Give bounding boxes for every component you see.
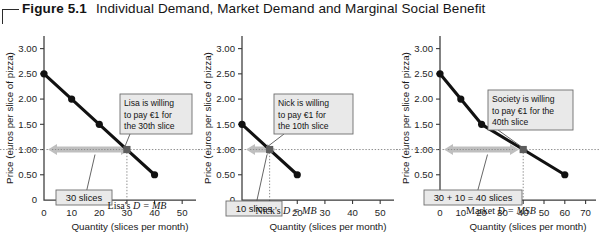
y-tick-label: 2.50 bbox=[18, 68, 37, 79]
data-point bbox=[436, 70, 443, 77]
y-tick-label: 2.50 bbox=[216, 68, 235, 79]
y-tick-label: 2.00 bbox=[216, 93, 235, 104]
callout-text-line: to pay €1 for the bbox=[492, 106, 554, 116]
callout-text-line: 40th slice bbox=[492, 117, 529, 127]
callout-text-line: to pay €1 for bbox=[278, 110, 326, 120]
curve-label: Nick's D = MB bbox=[255, 205, 316, 216]
y-tick-label: 2.50 bbox=[414, 68, 433, 79]
data-point bbox=[238, 121, 245, 128]
x-tick-label: 0 bbox=[437, 207, 442, 218]
x-tick-label: 40 bbox=[347, 207, 358, 218]
y-tick-label: 1.50 bbox=[216, 119, 235, 130]
x-tick-label: 20 bbox=[94, 207, 105, 218]
x-tick-label: 50 bbox=[539, 207, 550, 218]
y-tick-label: 3.00 bbox=[216, 43, 235, 54]
x-tick-label: 50 bbox=[177, 207, 188, 218]
highlight-point-marker bbox=[266, 146, 273, 153]
chart-market: 00.501.001.502.002.503.00010203040506070… bbox=[396, 24, 599, 247]
x-tick-label: 60 bbox=[559, 207, 570, 218]
y-axis-label: Price (euros per slice of pizza) bbox=[4, 52, 15, 184]
figure-header: Figure 5.1 Individual Demand, Market Dem… bbox=[0, 0, 599, 22]
corner-rule-decoration bbox=[2, 9, 19, 24]
highlight-point-marker bbox=[123, 146, 130, 153]
x-axis-label: Quantity (slices per month) bbox=[469, 221, 586, 232]
y-tick-label: 0.50 bbox=[18, 169, 37, 180]
chart-panel-nick: 00.501.001.502.002.503.0001020304050Quan… bbox=[198, 24, 398, 247]
callout-leader-line bbox=[498, 130, 521, 147]
callout-text-line: Lisa is willing bbox=[124, 98, 174, 108]
x-tick-label: 70 bbox=[580, 207, 591, 218]
data-point bbox=[561, 171, 568, 178]
callout-text-line: the 10th slice bbox=[278, 121, 329, 131]
y-tick-label: 3.00 bbox=[414, 43, 433, 54]
span-label-text: 30 slices bbox=[66, 192, 103, 203]
x-tick-label: 10 bbox=[66, 207, 77, 218]
y-tick-label: 0.50 bbox=[216, 169, 235, 180]
y-tick-label: 1.50 bbox=[18, 119, 37, 130]
curve-label: Market D = MSB bbox=[466, 205, 536, 216]
chart-lisa: 00.501.001.502.002.503.0001020304050Quan… bbox=[0, 24, 200, 247]
data-point bbox=[457, 95, 464, 102]
span-label-leader-line bbox=[257, 155, 267, 201]
y-tick-label: 0.50 bbox=[414, 169, 433, 180]
x-tick-label: 50 bbox=[375, 207, 386, 218]
y-axis-label: Price (euros per slice of pizza) bbox=[400, 52, 411, 184]
figure-number: Figure 5.1 bbox=[22, 1, 87, 16]
y-axis-label: Price (euros per slice of pizza) bbox=[202, 52, 213, 184]
callout-text-line: Society is willing bbox=[492, 94, 555, 104]
data-point bbox=[478, 121, 485, 128]
y-tick-label: 1.50 bbox=[414, 119, 433, 130]
callout-text-line: the 30th slice bbox=[124, 121, 175, 131]
y-tick-label: 2.00 bbox=[18, 93, 37, 104]
chart-nick: 00.501.001.502.002.503.0001020304050Quan… bbox=[198, 24, 398, 247]
data-point bbox=[151, 171, 158, 178]
quantity-span-arrow bbox=[48, 144, 130, 155]
y-tick-label: 0 bbox=[32, 194, 37, 205]
data-point bbox=[294, 171, 301, 178]
callout-text-line: to pay €1 for bbox=[124, 110, 172, 120]
chart-panel-lisa: 00.501.001.502.002.503.0001020304050Quan… bbox=[0, 24, 200, 247]
span-label-leader-line bbox=[478, 155, 488, 190]
callout-leader-line bbox=[268, 134, 284, 147]
figure-title: Individual Demand, Market Demand and Mar… bbox=[96, 1, 485, 16]
quantity-span-arrow bbox=[444, 144, 519, 155]
data-point bbox=[96, 121, 103, 128]
data-point bbox=[40, 70, 47, 77]
y-tick-label: 2.00 bbox=[414, 93, 433, 104]
x-tick-label: 0 bbox=[41, 207, 46, 218]
span-label-leader-line bbox=[87, 155, 95, 190]
x-axis-label: Quantity (slices per month) bbox=[71, 221, 188, 232]
chart-panel-market: 00.501.001.502.002.503.00010203040506070… bbox=[396, 24, 599, 247]
data-point bbox=[68, 95, 75, 102]
x-tick-label: 30 bbox=[320, 207, 331, 218]
span-label-text: 30 + 10 = 40 slices bbox=[434, 192, 513, 203]
curve-label: Lisa's D = MB bbox=[108, 200, 167, 211]
x-axis-label: Quantity (slices per month) bbox=[269, 221, 386, 232]
x-tick-label: 10 bbox=[455, 207, 466, 218]
callout-text-line: Nick is willing bbox=[278, 98, 329, 108]
y-tick-label: 3.00 bbox=[18, 43, 37, 54]
callout-leader-line bbox=[125, 134, 130, 147]
highlight-point-marker bbox=[520, 146, 527, 153]
